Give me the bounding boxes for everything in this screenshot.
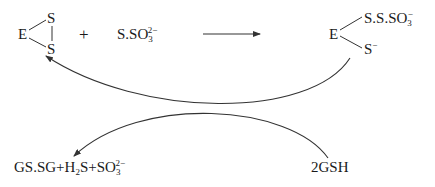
bond-e-s-minus [340, 36, 362, 48]
adduct-upper-base: S.S.SO [364, 10, 407, 26]
byproducts-charge: 2− [115, 158, 125, 168]
thiosulfate-label: S.SO32− [117, 27, 157, 44]
adduct-lower-branch: S− [364, 42, 377, 59]
plus-sign: + [79, 27, 89, 42]
sulfur-bottom-label: S [47, 42, 55, 57]
byproducts-h2-sub: 2 [75, 167, 80, 177]
bond-e-s-top [29, 20, 46, 30]
thiosulfate-charge: 2− [148, 25, 158, 35]
byproducts-part2: S+SO [80, 159, 116, 175]
bond-e-s-bottom [29, 38, 46, 47]
adduct-upper-sub: 3 [407, 18, 412, 28]
byproducts-so3-sub: 3 [116, 167, 121, 177]
adduct-upper-charge: − [408, 9, 413, 19]
thiosulfate-sub: 3 [148, 34, 153, 44]
byproducts-label: GS.SG+H2S+SO32− [14, 160, 125, 177]
adduct-lower-charge: − [372, 40, 377, 50]
adduct-upper-branch: S.S.SO3− [364, 11, 413, 28]
sulfur-top-label: S [47, 11, 55, 26]
enzyme-label-left: E [18, 27, 27, 42]
regeneration-curved-arrow [46, 56, 350, 104]
bond-e-ssso3 [340, 17, 362, 30]
thiosulfate-base: S.SO [117, 26, 148, 42]
enzyme-label-right: E [329, 27, 338, 42]
reduction-curved-arrow [74, 113, 328, 158]
byproducts-part1: GS.SG+H [14, 159, 75, 175]
glutathione-label: 2GSH [311, 160, 349, 175]
